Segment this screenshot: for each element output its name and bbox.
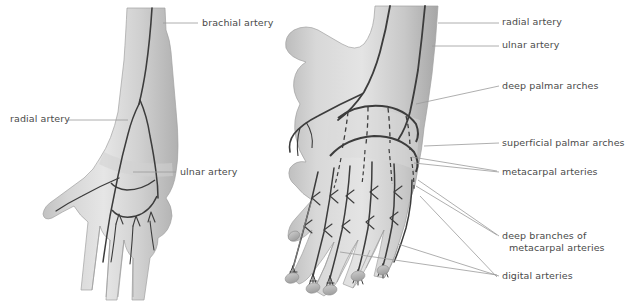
label-deep-branches-line1: deep branches of bbox=[502, 230, 586, 241]
left-forearm-shape bbox=[43, 8, 178, 300]
label-ulnar-artery-left: ulnar artery bbox=[180, 166, 237, 178]
left-arm-illustration bbox=[43, 8, 178, 300]
leader-deep-branches-2 bbox=[416, 186, 497, 235]
label-radial-artery-right: radial artery bbox=[502, 16, 562, 28]
right-hand-illustration bbox=[284, 6, 438, 296]
label-deep-branches-of-metacarpal-arteries: deep branches of metacarpal arteries bbox=[502, 230, 622, 253]
leader-digital-arteries bbox=[398, 244, 499, 276]
label-radial-artery-left: radial artery bbox=[10, 113, 70, 125]
label-metacarpal-arteries: metacarpal arteries bbox=[502, 166, 598, 178]
label-brachial-artery: brachial artery bbox=[202, 17, 273, 29]
leader-superficial-palmar-arches bbox=[424, 143, 499, 146]
label-ulnar-artery-right: ulnar artery bbox=[502, 39, 559, 51]
label-superficial-palmar-arches: superficial palmar arches bbox=[502, 137, 625, 149]
leader-deep-branches bbox=[418, 180, 499, 236]
label-digital-arteries: digital arteries bbox=[502, 270, 573, 282]
label-deep-branches-line2: metacarpal arteries bbox=[502, 242, 622, 254]
label-deep-palmar-arches: deep palmar arches bbox=[502, 80, 599, 92]
anatomy-figure: brachial artery radial artery ulnar arte… bbox=[0, 0, 626, 304]
